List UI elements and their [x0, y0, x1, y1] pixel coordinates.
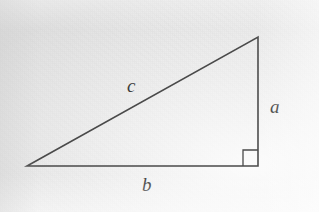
vertical-leg-label: a [270, 97, 280, 116]
triangle-outline [27, 37, 258, 166]
horizontal-leg-label: b [142, 175, 152, 194]
hypotenuse-label: c [127, 76, 135, 95]
right-triangle-figure: c a b [0, 0, 319, 212]
right-angle-marker-icon [243, 150, 258, 166]
